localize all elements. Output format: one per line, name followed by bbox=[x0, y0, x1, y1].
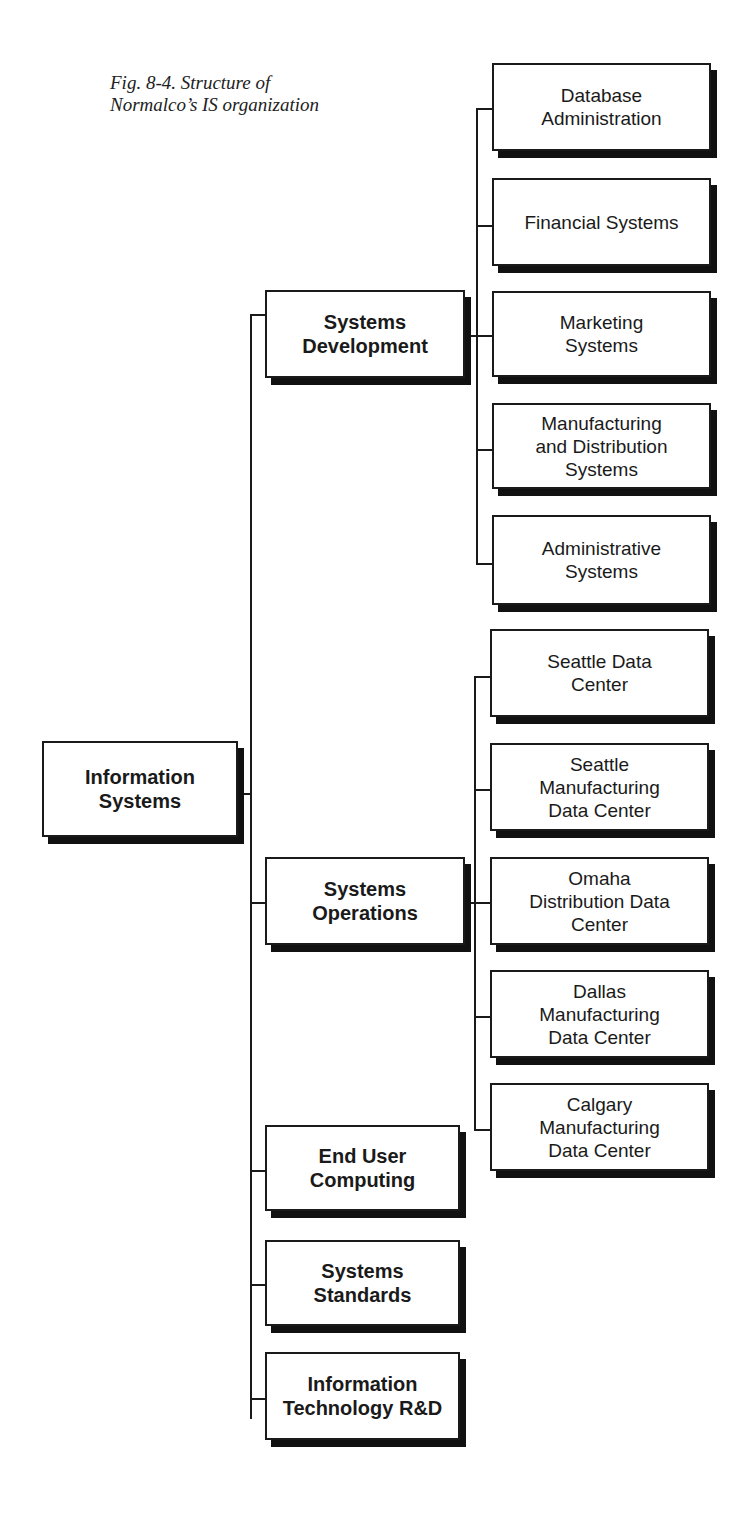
connector bbox=[476, 563, 492, 565]
caption-line-2: Normalco’s IS organization bbox=[110, 94, 319, 116]
connector bbox=[474, 902, 490, 904]
node-financial-systems: Financial Systems bbox=[492, 178, 711, 266]
node-systems-operations: SystemsOperations bbox=[265, 857, 465, 945]
node-it-rnd: InformationTechnology R&D bbox=[265, 1352, 460, 1440]
node-administrative-systems: AdministrativeSystems bbox=[492, 515, 711, 605]
node-calgary-manufacturing-data-center: CalgaryManufacturingData Center bbox=[490, 1083, 709, 1171]
connector bbox=[474, 789, 490, 791]
node-dallas-manufacturing-data-center: DallasManufacturingData Center bbox=[490, 970, 709, 1058]
node-omaha-distribution-data-center: OmahaDistribution DataCenter bbox=[490, 857, 709, 945]
connector bbox=[250, 1284, 266, 1286]
main-trunk-line bbox=[250, 314, 252, 1419]
node-seattle-data-center: Seattle DataCenter bbox=[490, 629, 709, 717]
connector bbox=[476, 108, 492, 110]
node-seattle-manufacturing-data-center: SeattleManufacturingData Center bbox=[490, 743, 709, 831]
connector bbox=[250, 314, 266, 316]
connector bbox=[474, 1129, 490, 1131]
node-marketing-systems: MarketingSystems bbox=[492, 291, 711, 377]
node-manufacturing-distribution-systems: Manufacturingand DistributionSystems bbox=[492, 403, 711, 489]
connector bbox=[476, 449, 492, 451]
node-database-administration: DatabaseAdministration bbox=[492, 63, 711, 151]
node-systems-standards: SystemsStandards bbox=[265, 1240, 460, 1326]
connector bbox=[250, 902, 266, 904]
connector bbox=[250, 1398, 266, 1400]
connector bbox=[474, 1016, 490, 1018]
connector bbox=[250, 1170, 266, 1172]
caption-line-1: Fig. 8-4. Structure of bbox=[110, 72, 319, 94]
node-end-user-computing: End UserComputing bbox=[265, 1125, 460, 1211]
connector bbox=[474, 676, 490, 678]
node-information-systems: InformationSystems bbox=[42, 741, 238, 837]
node-systems-development: SystemsDevelopment bbox=[265, 290, 465, 378]
figure-caption: Fig. 8-4. Structure of Normalco’s IS org… bbox=[110, 72, 319, 116]
connector bbox=[476, 225, 492, 227]
connector bbox=[476, 335, 492, 337]
